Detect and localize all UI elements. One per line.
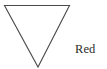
shape-label-red: Red [75,43,95,56]
figure-canvas: Red [0,0,107,69]
inverted-triangle-shape [5,6,70,68]
shape-layer [0,0,107,69]
